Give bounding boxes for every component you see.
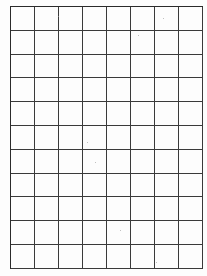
grid-cell — [107, 102, 131, 126]
grid-cell — [179, 7, 203, 31]
grid-cell — [83, 78, 107, 102]
grid-cell — [11, 150, 35, 174]
grid-cell — [35, 102, 59, 126]
grid-cell — [107, 150, 131, 174]
scan-speck — [138, 35, 139, 36]
grid-cell — [59, 7, 83, 31]
grid-cell — [83, 126, 107, 150]
grid-cell — [59, 221, 83, 245]
grid-cell — [11, 78, 35, 102]
grid-cell — [179, 78, 203, 102]
grid-cell — [11, 197, 35, 221]
grid-cell — [107, 7, 131, 31]
scan-speck — [58, 16, 59, 17]
grid-cell — [131, 55, 155, 79]
grid-cell — [59, 174, 83, 198]
grid-cell — [155, 31, 179, 55]
grid-cell — [59, 126, 83, 150]
grid-paper-page — [0, 0, 207, 276]
grid-cell — [35, 221, 59, 245]
grid-cell — [179, 174, 203, 198]
grid-cell — [83, 7, 107, 31]
grid-cell — [131, 174, 155, 198]
grid-cell — [179, 31, 203, 55]
grid-cell — [35, 126, 59, 150]
grid-cell — [155, 7, 179, 31]
grid-cell — [11, 7, 35, 31]
grid-cell — [155, 102, 179, 126]
grid-cell — [11, 31, 35, 55]
grid-cell — [131, 31, 155, 55]
grid-cell — [107, 55, 131, 79]
grid-cell — [131, 78, 155, 102]
grid-cell — [83, 55, 107, 79]
grid-cell — [59, 197, 83, 221]
grid-cell — [131, 126, 155, 150]
grid-cell — [155, 55, 179, 79]
grid-cell — [155, 245, 179, 269]
grid-cell — [155, 78, 179, 102]
grid-cell — [35, 197, 59, 221]
grid-cell — [107, 245, 131, 269]
scan-speck — [95, 162, 96, 163]
grid-cell — [179, 55, 203, 79]
grid-cell — [179, 245, 203, 269]
grid-cell — [179, 150, 203, 174]
grid-cell — [107, 78, 131, 102]
grid-cell — [11, 55, 35, 79]
grid-cell — [179, 197, 203, 221]
grid-cell — [179, 102, 203, 126]
grid-cell — [59, 150, 83, 174]
scan-speck — [120, 230, 121, 231]
grid-cell — [107, 31, 131, 55]
grid-cell — [155, 221, 179, 245]
grid-cell — [107, 174, 131, 198]
grid-cell — [83, 245, 107, 269]
grid-cell — [107, 197, 131, 221]
grid-cell — [155, 197, 179, 221]
grid-cell — [11, 174, 35, 198]
grid-cell — [59, 102, 83, 126]
grid-cell — [131, 245, 155, 269]
grid-cell — [155, 174, 179, 198]
grid-cell — [35, 55, 59, 79]
grid-cell — [35, 31, 59, 55]
scan-speck — [163, 18, 164, 19]
grid-cell — [107, 221, 131, 245]
scan-speck — [87, 142, 88, 143]
grid-cell — [179, 221, 203, 245]
grid-cell — [131, 197, 155, 221]
grid-cell — [35, 245, 59, 269]
grid-cell — [131, 102, 155, 126]
grid-cell — [35, 78, 59, 102]
grid-cell — [131, 150, 155, 174]
grid-cell — [35, 174, 59, 198]
grid-cell — [83, 102, 107, 126]
grid-cell — [59, 31, 83, 55]
grid-cell — [83, 197, 107, 221]
grid-cell — [83, 31, 107, 55]
grid-table — [10, 6, 203, 269]
grid-cell — [83, 174, 107, 198]
grid-cell — [107, 126, 131, 150]
grid-cell — [131, 221, 155, 245]
scan-speck — [156, 262, 157, 263]
grid-cell — [59, 55, 83, 79]
grid-cell — [179, 126, 203, 150]
grid-cell — [131, 7, 155, 31]
grid-cell — [11, 102, 35, 126]
grid-cell — [11, 126, 35, 150]
grid-cell — [35, 7, 59, 31]
grid-cell — [35, 150, 59, 174]
grid-cell — [11, 221, 35, 245]
grid-cell — [59, 78, 83, 102]
grid-cell — [59, 245, 83, 269]
grid-cell — [155, 150, 179, 174]
grid-cell — [83, 221, 107, 245]
grid-cell — [11, 245, 35, 269]
grid-cell — [155, 126, 179, 150]
